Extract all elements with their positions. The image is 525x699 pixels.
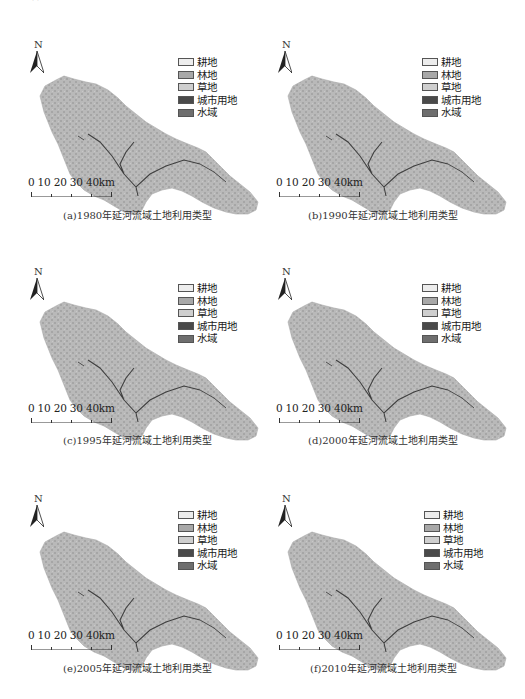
scale-labels: 0 10 20 30 40km xyxy=(28,176,115,188)
swatch-urban xyxy=(422,322,438,330)
legend-item-water: 水域 xyxy=(422,106,481,119)
scale-labels: 0 10 20 30 40km xyxy=(28,402,115,414)
legend-item-forest: 林地 xyxy=(424,522,483,535)
swatch-forest xyxy=(178,71,194,79)
north-arrow: N xyxy=(30,494,50,530)
north-arrow: N xyxy=(278,494,298,530)
swatch-cropland xyxy=(178,511,194,519)
legend: 耕地 林地 草地 城市用地 水域 xyxy=(422,282,481,345)
map-panel-a: N 耕地 林地 草地 城市用地 xyxy=(0,30,262,258)
swatch-urban xyxy=(178,96,194,104)
scale-labels: 0 10 20 30 40km xyxy=(276,629,363,641)
legend-item-cropland: 耕地 xyxy=(178,282,237,295)
legend-label: 城市用地 xyxy=(441,320,481,333)
scale-bar: 0 10 20 30 40km xyxy=(276,402,386,428)
legend: 耕地 林地 草地 城市用地 水域 xyxy=(424,509,483,572)
scale-line xyxy=(31,418,112,423)
scale-labels: 0 10 20 30 40km xyxy=(276,402,363,414)
legend-label: 水域 xyxy=(197,559,217,572)
legend-label: 耕地 xyxy=(441,56,461,69)
legend-item-grassland: 草地 xyxy=(178,534,237,547)
swatch-forest xyxy=(422,297,438,305)
panel-caption: (b)1990年延河流域土地利用类型 xyxy=(308,207,458,222)
swatch-water xyxy=(422,109,438,117)
panel-caption: (a)1980年延河流域土地利用类型 xyxy=(63,207,212,222)
swatch-grassland xyxy=(178,309,194,317)
legend-item-forest: 林地 xyxy=(178,295,237,308)
legend-item-water: 水域 xyxy=(178,106,237,119)
legend-item-urban: 城市用地 xyxy=(178,320,237,333)
north-arrow-icon xyxy=(278,278,292,300)
legend: 耕地 林地 草地 城市用地 水域 xyxy=(178,282,237,345)
north-label: N xyxy=(34,494,43,504)
legend-item-cropland: 耕地 xyxy=(422,282,481,295)
legend-item-urban: 城市用地 xyxy=(178,94,237,107)
legend-label: 草地 xyxy=(441,81,461,94)
swatch-forest xyxy=(424,524,440,532)
panel-caption: (c)1995年延河流域土地利用类型 xyxy=(63,432,212,447)
legend-label: 水域 xyxy=(197,106,217,119)
legend: 耕地 林地 草地 城市用地 水域 xyxy=(422,56,481,119)
legend-item-grassland: 草地 xyxy=(424,534,483,547)
scale-line xyxy=(279,192,360,197)
legend-label: 耕地 xyxy=(197,509,217,522)
swatch-urban xyxy=(422,96,438,104)
map-panel-e: N 耕地 林地 草地 城市用地 xyxy=(0,486,262,699)
swatch-forest xyxy=(178,524,194,532)
north-arrow: N xyxy=(278,267,298,303)
swatch-grassland xyxy=(424,536,440,544)
legend-label: 水域 xyxy=(443,559,463,572)
swatch-grassland xyxy=(422,309,438,317)
north-label: N xyxy=(34,267,43,277)
legend-item-forest: 林地 xyxy=(178,69,237,82)
legend-label: 林地 xyxy=(441,69,461,82)
swatch-water xyxy=(178,335,194,343)
north-arrow: N xyxy=(30,40,50,76)
swatch-water xyxy=(422,335,438,343)
legend-label: 城市用地 xyxy=(197,320,237,333)
legend: 耕地 林地 草地 城市用地 水域 xyxy=(178,56,237,119)
legend-item-grassland: 草地 xyxy=(178,81,237,94)
north-label: N xyxy=(34,40,43,50)
legend-label: 城市用地 xyxy=(197,547,237,560)
panel-caption: (d)2000年延河流域土地利用类型 xyxy=(308,432,458,447)
legend-label: 耕地 xyxy=(443,509,463,522)
north-label: N xyxy=(282,494,291,504)
legend: 耕地 林地 草地 城市用地 水域 xyxy=(178,509,237,572)
legend-label: 草地 xyxy=(441,307,461,320)
legend-item-cropland: 耕地 xyxy=(424,509,483,522)
cropped-top-text: （ ） xyxy=(24,0,194,2)
map-panel-b: N 耕地 林地 草地 城市用地 xyxy=(262,30,524,258)
map-panel-c: N 耕地 林地 草地 城市用地 xyxy=(0,256,262,484)
north-label: N xyxy=(282,267,291,277)
legend-label: 林地 xyxy=(197,69,217,82)
legend-label: 水域 xyxy=(441,332,461,345)
scale-labels: 0 10 20 30 40km xyxy=(276,176,363,188)
legend-label: 草地 xyxy=(443,534,463,547)
legend-label: 水域 xyxy=(197,332,217,345)
legend-item-water: 水域 xyxy=(178,332,237,345)
legend-item-forest: 林地 xyxy=(422,69,481,82)
legend-item-cropland: 耕地 xyxy=(178,509,237,522)
panel-caption: (f)2010年延河流域土地利用类型 xyxy=(310,660,457,675)
legend-label: 城市用地 xyxy=(197,94,237,107)
swatch-cropland xyxy=(178,58,194,66)
legend-label: 耕地 xyxy=(441,282,461,295)
legend-item-cropland: 耕地 xyxy=(178,56,237,69)
legend-item-grassland: 草地 xyxy=(422,81,481,94)
north-arrow-icon xyxy=(30,51,44,73)
scale-line xyxy=(279,418,360,423)
legend-item-grassland: 草地 xyxy=(178,307,237,320)
scale-labels: 0 10 20 30 40km xyxy=(28,629,115,641)
legend-item-urban: 城市用地 xyxy=(422,320,481,333)
legend-label: 林地 xyxy=(197,295,217,308)
swatch-urban xyxy=(178,322,194,330)
north-arrow-icon xyxy=(30,505,44,527)
swatch-forest xyxy=(178,297,194,305)
north-arrow-icon xyxy=(30,278,44,300)
map-panel-d: N 耕地 林地 草地 城市用地 xyxy=(262,256,524,484)
legend-label: 林地 xyxy=(441,295,461,308)
swatch-water xyxy=(178,562,194,570)
swatch-cropland xyxy=(424,511,440,519)
scale-line xyxy=(31,645,112,650)
